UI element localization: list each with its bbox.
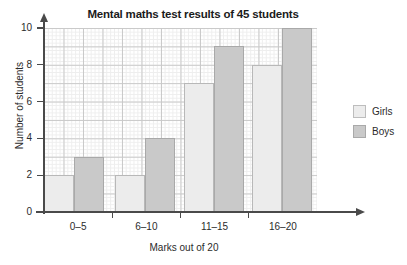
legend-swatch-boys-icon (353, 125, 366, 138)
bar-girls-11-15 (184, 83, 214, 212)
y-tick-0 (37, 211, 44, 212)
bar-girls-6-10 (115, 175, 145, 212)
x-tick-label-3: 16–20 (253, 221, 313, 232)
y-tick-2 (37, 175, 44, 176)
plot-area (44, 28, 317, 212)
y-tick-6 (37, 101, 44, 102)
y-tick-4 (37, 138, 44, 139)
bar-girls-0-5 (44, 175, 74, 212)
x-axis-arrow-icon (356, 208, 365, 216)
bar-boys-16-20 (282, 28, 312, 212)
y-axis-line (43, 20, 45, 214)
chart-title: Mental maths test results of 45 students (58, 8, 328, 20)
x-tick-3 (248, 211, 249, 218)
x-tick-2 (180, 211, 181, 218)
x-tick-label-0: 0–5 (48, 221, 108, 232)
x-tick-label-1: 6–10 (116, 221, 176, 232)
legend-label-girls: Girls (372, 106, 393, 117)
legend-item-girls: Girls (353, 105, 394, 118)
y-axis-arrow-icon (40, 13, 48, 22)
x-tick-label-2: 11–15 (185, 221, 245, 232)
y-tick-8 (37, 64, 44, 65)
legend-label-boys: Boys (372, 126, 394, 137)
legend-item-boys: Boys (353, 125, 394, 138)
y-axis-title: Number of students (14, 31, 25, 181)
bar-boys-0-5 (74, 157, 104, 212)
bar-boys-6-10 (145, 138, 175, 212)
legend-swatch-girls-icon (353, 105, 366, 118)
bar-boys-11-15 (214, 46, 244, 212)
y-tick-10 (37, 27, 44, 28)
bar-girls-16-20 (252, 65, 282, 212)
x-tick-1 (112, 211, 113, 218)
x-axis-line (36, 211, 358, 213)
legend: Girls Boys (353, 105, 394, 145)
bar-chart: Mental maths test results of 45 students… (0, 0, 407, 265)
x-axis-title: Marks out of 20 (104, 242, 264, 253)
y-tick-label-0: 0 (2, 206, 32, 217)
